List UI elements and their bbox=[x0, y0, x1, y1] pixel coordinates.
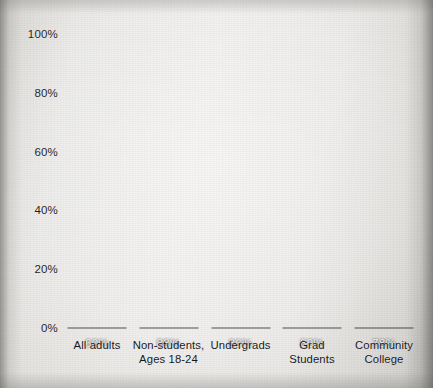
x-tick-line: Ages 18-24 bbox=[119, 352, 219, 366]
x-tick-community-college: Community College bbox=[334, 338, 433, 366]
y-tick-40: 40% bbox=[34, 204, 58, 216]
plot-area: 60% 88% 86% 82% 78% bbox=[68, 34, 413, 328]
y-tick-0: 0% bbox=[41, 322, 58, 334]
bar-chart-figure: 100% 80% 60% 40% 20% 0% 60% 88% 86% bbox=[0, 0, 433, 388]
y-tick-80: 80% bbox=[34, 87, 58, 99]
y-tick-100: 100% bbox=[28, 28, 58, 40]
x-tick-line: College bbox=[334, 352, 433, 366]
y-axis: 100% 80% 60% 40% 20% 0% bbox=[0, 34, 58, 328]
x-axis: All adults Non-students, Ages 18-24 Unde… bbox=[68, 338, 413, 384]
y-tick-20: 20% bbox=[34, 263, 58, 275]
x-tick-line: Community bbox=[334, 338, 433, 352]
y-tick-60: 60% bbox=[34, 146, 58, 158]
